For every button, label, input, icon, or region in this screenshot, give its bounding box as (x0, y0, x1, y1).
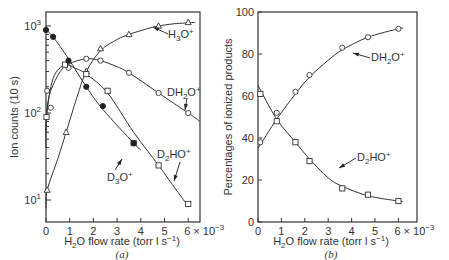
svg-text:D2HO+: D2HO+ (357, 150, 391, 166)
y-tick-label: 101 (24, 192, 41, 206)
annotation-dh2o: DH2O+ (167, 85, 201, 110)
y-tick-label: 80 (242, 48, 254, 60)
plot-frame-b (258, 12, 417, 222)
series-b-d2ho (258, 86, 403, 204)
data-point (156, 90, 161, 95)
figure: 1031021010123456 × 10−3H2O flow rate (to… (0, 0, 449, 260)
data-point (84, 84, 89, 89)
data-point (44, 114, 49, 119)
curve (258, 86, 403, 202)
curve (46, 30, 141, 150)
y-axis-label-a: Ion counts (10 s) (8, 76, 20, 158)
data-point (84, 71, 89, 76)
data-point (365, 35, 370, 40)
svg-text:H3O+: H3O+ (168, 27, 194, 43)
data-point (340, 186, 345, 191)
data-point (340, 45, 345, 50)
data-point (293, 89, 298, 94)
annotation-h3o: H3O+ (153, 27, 194, 43)
data-point (185, 19, 191, 24)
y-tick-label: 60 (242, 90, 254, 102)
annotation-b-d2ho: D2HO+ (339, 150, 391, 168)
data-point (396, 198, 401, 203)
annotation-d3o: D3O+ (107, 159, 133, 186)
data-point (186, 201, 191, 206)
y-tick-label: 20 (242, 174, 254, 186)
svg-text:D2HO+: D2HO+ (157, 147, 191, 163)
data-point (258, 91, 263, 96)
data-point (51, 34, 56, 39)
data-point (84, 56, 89, 61)
series-b-dh2o (258, 26, 403, 148)
data-point (274, 110, 279, 115)
chart-panel-b: 0204060801000123456 × 10−3H2O flow rate … (222, 6, 435, 260)
x-multiplier-b: 6 × 10−3 (394, 223, 435, 237)
svg-text:D3O+: D3O+ (107, 170, 133, 186)
data-point (48, 105, 53, 110)
svg-text:DH2O+: DH2O+ (167, 85, 201, 101)
svg-text:DH2O+: DH2O+ (371, 50, 405, 66)
data-point (105, 88, 110, 93)
data-point (258, 140, 263, 145)
data-point (293, 140, 298, 145)
panel-label-a: (a) (116, 248, 129, 260)
data-point (63, 129, 69, 134)
chart-panel-a: 1031021010123456 × 10−3H2O flow rate (to… (8, 12, 225, 260)
x-tick-label: 0 (255, 225, 261, 237)
y-tick-label: 100 (236, 6, 254, 18)
series-d3o (43, 27, 140, 149)
y-axis-label-b: Percentages of ionized products (222, 38, 234, 196)
data-point (186, 110, 191, 115)
data-point (43, 27, 48, 32)
data-point (307, 159, 312, 164)
data-point (44, 187, 50, 192)
data-point (274, 119, 279, 124)
data-point (396, 26, 401, 31)
data-point (126, 70, 131, 75)
y-tick-label: 0 (248, 216, 254, 228)
y-tick-label: 102 (24, 105, 41, 119)
data-point (307, 72, 312, 77)
data-point (66, 58, 71, 63)
x-multiplier-a: 6 × 10−3 (184, 223, 225, 237)
data-point (45, 88, 50, 93)
annotation-b-dh2o: DH2O+ (353, 50, 405, 66)
annotation-d2ho: D2HO+ (157, 147, 191, 181)
data-point (365, 192, 370, 197)
panel-label-b: (b) (325, 248, 338, 260)
data-point (131, 141, 136, 146)
data-point (100, 104, 105, 109)
y-tick-label: 103 (24, 18, 41, 32)
data-point (156, 163, 161, 168)
data-point (98, 58, 103, 63)
curve (258, 28, 403, 149)
x-tick-label: 0 (43, 225, 49, 237)
y-tick-label: 40 (242, 132, 254, 144)
